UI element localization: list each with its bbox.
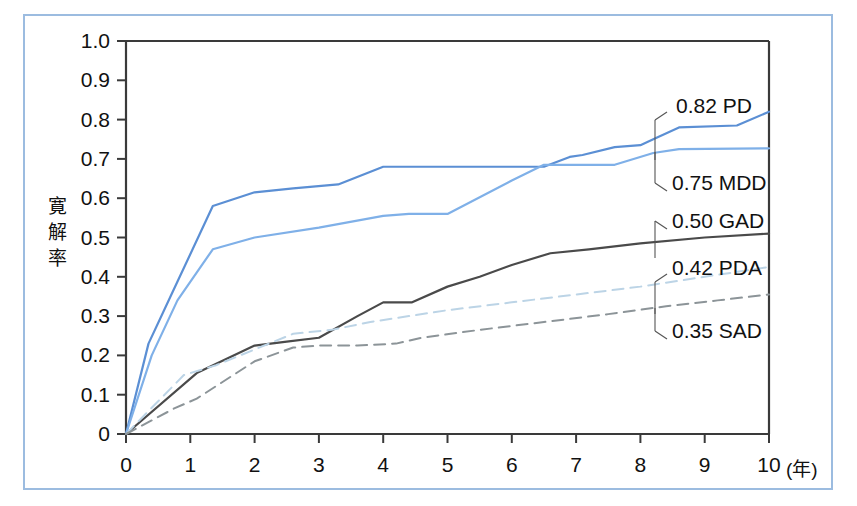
x-tick-label: 7 [570, 453, 582, 476]
x-tick-label: 2 [249, 453, 261, 476]
y-tick-label: 0.3 [81, 304, 110, 327]
series-line-pda [126, 267, 769, 434]
series-annotation-mdd: 0.75 MDD [672, 171, 767, 194]
y-axis-title-char: 寛 [48, 195, 67, 217]
x-tick-label: 5 [442, 453, 454, 476]
remission-rate-line-chart: 00.10.20.30.40.50.60.70.80.91.0 01234567… [0, 0, 857, 506]
series-annotation-sad: 0.35 SAD [672, 319, 762, 342]
series-annotation-pd: 0.82 PD [676, 94, 752, 117]
x-tick-label: 0 [120, 453, 132, 476]
x-axis-unit-label: (年) [786, 459, 818, 480]
annotation-hook-pd [655, 112, 667, 120]
x-axis-tick-labels: 012345678910 [120, 453, 781, 476]
y-tick-label: 0 [98, 422, 110, 445]
x-tick-label: 6 [506, 453, 518, 476]
y-axis-title-char: 率 [48, 247, 67, 269]
series-annotation-gad: 0.50 GAD [672, 209, 764, 232]
annotation-leaders [655, 112, 667, 339]
annotation-hook-mdd [655, 183, 667, 191]
y-tick-label: 0.1 [81, 383, 110, 406]
y-axis-tick-labels: 00.10.20.30.40.50.60.70.80.91.0 [81, 29, 111, 445]
figure-root: 00.10.20.30.40.50.60.70.80.91.0 01234567… [0, 0, 857, 506]
series-annotation-pda: 0.42 PDA [672, 256, 762, 279]
x-tick-label: 4 [377, 453, 389, 476]
y-tick-label: 0.2 [81, 343, 110, 366]
annotation-hook-pda [655, 274, 667, 282]
y-tick-label: 0.8 [81, 108, 110, 131]
annotation-hook-gad [655, 221, 667, 229]
y-tick-label: 0.7 [81, 147, 110, 170]
y-tick-label: 0.5 [81, 226, 110, 249]
annotation-hook-sad [655, 331, 667, 339]
y-tick-label: 0.6 [81, 186, 110, 209]
x-axis-ticks [126, 434, 769, 443]
y-tick-label: 1.0 [81, 29, 110, 52]
y-axis-ticks [117, 41, 126, 434]
series-line-sad [126, 294, 769, 434]
y-tick-label: 0.9 [81, 68, 110, 91]
chart-axes [126, 41, 769, 434]
x-tick-label: 10 [757, 453, 780, 476]
y-axis-title: 寛解率 [48, 195, 67, 269]
x-tick-label: 3 [313, 453, 325, 476]
x-tick-label: 9 [699, 453, 711, 476]
y-tick-label: 0.4 [81, 265, 111, 288]
y-axis-title-char: 解 [48, 221, 67, 243]
x-tick-label: 1 [184, 453, 196, 476]
x-tick-label: 8 [635, 453, 647, 476]
